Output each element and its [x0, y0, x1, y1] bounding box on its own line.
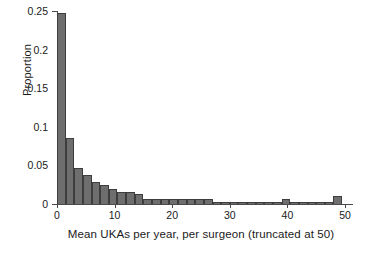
- histogram-bar: [290, 202, 299, 204]
- histogram-bar: [109, 189, 118, 204]
- histogram-bar: [83, 175, 92, 204]
- histogram-bar: [256, 202, 265, 204]
- histogram-bar: [92, 182, 101, 204]
- histogram-figure: Proportion 00.050.10.150.20.25 010203040…: [0, 0, 365, 257]
- x-tick-label: 50: [330, 210, 360, 221]
- histogram-bar: [169, 199, 178, 204]
- x-tick-label: 40: [272, 210, 302, 221]
- x-tick-mark: [172, 204, 173, 208]
- histogram-bar: [100, 185, 109, 204]
- histogram-bar: [230, 202, 239, 204]
- histogram-bar: [273, 202, 282, 204]
- x-tick-label: 30: [215, 210, 245, 221]
- histogram-bar: [316, 202, 325, 204]
- histogram-bar: [135, 194, 144, 204]
- histogram-bar: [178, 199, 187, 204]
- histogram-bar: [221, 202, 230, 204]
- y-tick-label: 0.15: [4, 83, 48, 93]
- histogram-bars: [57, 11, 345, 204]
- histogram-bar: [247, 202, 256, 204]
- histogram-bar: [333, 196, 342, 204]
- histogram-bar: [282, 199, 291, 204]
- histogram-bar: [126, 192, 135, 204]
- y-tick-label: 0.2: [4, 45, 48, 55]
- histogram-bar: [57, 13, 66, 204]
- y-tick-label: 0.1: [4, 122, 48, 132]
- histogram-bar: [117, 192, 126, 204]
- y-tick-label: 0.25: [4, 6, 48, 16]
- histogram-bar: [204, 199, 213, 204]
- x-tick-mark: [345, 204, 346, 208]
- histogram-bar: [325, 202, 334, 204]
- x-tick-label: 0: [42, 210, 72, 221]
- histogram-bar: [195, 199, 204, 204]
- x-tick-mark: [57, 204, 58, 208]
- y-tick-label: 0.05: [4, 160, 48, 170]
- histogram-bar: [161, 199, 170, 204]
- x-tick-mark: [115, 204, 116, 208]
- x-axis-title: Mean UKAs per year, per surgeon (truncat…: [57, 228, 345, 240]
- histogram-bar: [187, 199, 196, 204]
- histogram-bar: [143, 199, 152, 204]
- x-axis-line: [57, 204, 353, 205]
- x-tick-mark: [287, 204, 288, 208]
- x-tick-mark: [230, 204, 231, 208]
- histogram-bar: [299, 202, 308, 204]
- histogram-bar: [66, 138, 75, 204]
- histogram-bar: [238, 202, 247, 204]
- histogram-bar: [264, 202, 273, 204]
- histogram-bar: [213, 202, 222, 204]
- histogram-bar: [74, 168, 83, 204]
- x-tick-label: 20: [157, 210, 187, 221]
- x-tick-label: 10: [100, 210, 130, 221]
- y-axis-title: Proportion: [21, 15, 33, 125]
- y-tick-label: 0: [4, 199, 48, 209]
- histogram-bar: [152, 199, 161, 204]
- histogram-bar: [308, 202, 317, 204]
